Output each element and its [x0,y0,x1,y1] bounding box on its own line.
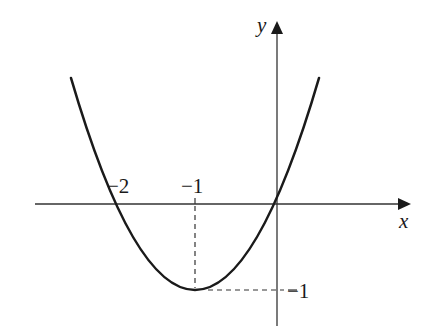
y-axis-arrow-icon [271,21,283,34]
parabola-figure: y x −2 −1 −1 [0,0,432,335]
y-tick-label-neg1: −1 [287,279,309,303]
graph-canvas: y x −2 −1 −1 [0,0,432,335]
y-axis-label: y [255,13,267,37]
x-tick-label-neg1: −1 [181,174,203,198]
x-axis-label: x [398,209,409,233]
x-tick-label-neg2: −2 [107,174,129,198]
